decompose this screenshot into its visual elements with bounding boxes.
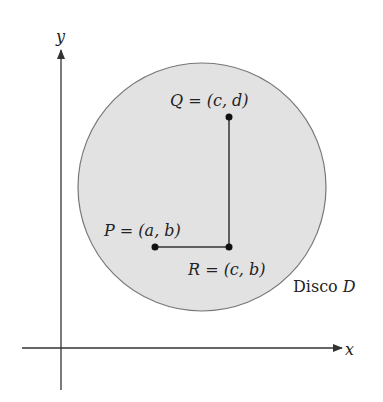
label-r: R = (c, b) (187, 260, 265, 279)
point-q (226, 114, 233, 121)
label-q: Q = (c, d) (170, 91, 249, 110)
point-p (152, 244, 159, 251)
disk-label: Disco D (293, 277, 356, 296)
disk-diagram: y x Q = (c, d) P = (a, b) R = (c, b) Dis… (0, 0, 383, 402)
y-axis-label: y (55, 27, 66, 46)
x-axis-label: x (345, 340, 354, 359)
label-p: P = (a, b) (103, 221, 181, 240)
point-r (226, 244, 233, 251)
